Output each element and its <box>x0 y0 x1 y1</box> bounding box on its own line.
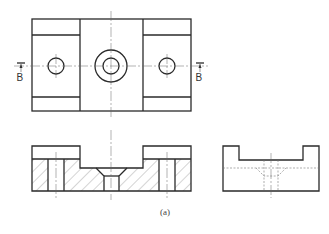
side-view-outline <box>223 146 319 191</box>
figure-caption: (a) <box>160 207 170 217</box>
side-view <box>223 146 319 198</box>
svg-text:B: B <box>17 72 24 83</box>
top-view: B B <box>14 11 208 117</box>
svg-text:B: B <box>196 72 203 83</box>
front-section-view <box>32 130 191 200</box>
engineering-drawing: B B <box>0 0 329 234</box>
